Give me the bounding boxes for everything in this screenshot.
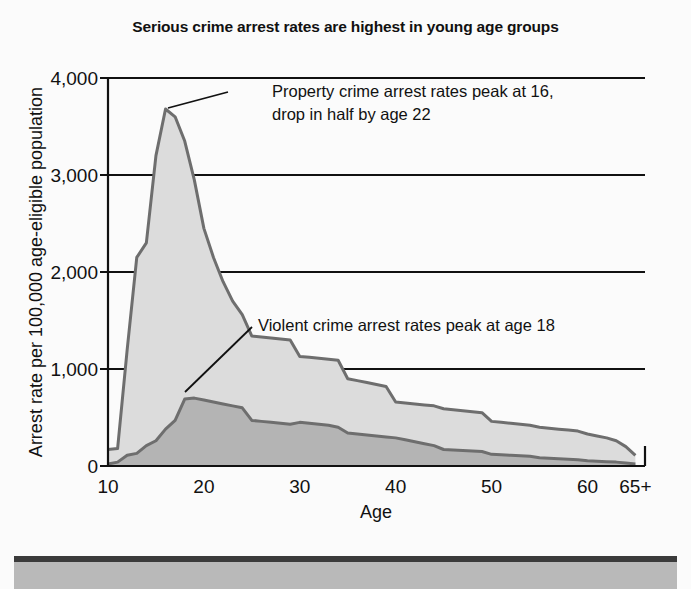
annotation-text: Property crime arrest rates peak at 16,d… xyxy=(272,82,554,123)
x-tick-label: 30 xyxy=(289,476,310,497)
x-axis-title-group: Age xyxy=(360,502,392,522)
x-tick-label: 65+ xyxy=(619,476,651,497)
y-tick-label: 2,000 xyxy=(50,262,98,283)
annotation-line: drop in half by age 22 xyxy=(272,105,431,123)
area-chart-svg: Arrest rate per 100,000 age-eligible pop… xyxy=(0,0,691,540)
annotation-text: Violent crime arrest rates peak at age 1… xyxy=(258,316,555,334)
x-tick-label: 50 xyxy=(481,476,502,497)
y-axis-title-group: Arrest rate per 100,000 age-eligible pop… xyxy=(26,87,46,457)
y-tick-labels-group: 01,0002,0003,0004,000 xyxy=(50,68,108,477)
plot-area-container: Arrest rate per 100,000 age-eligible pop… xyxy=(0,0,691,540)
series-areas-group xyxy=(108,109,635,466)
x-tick-label: 20 xyxy=(193,476,214,497)
annotation-line: Property crime arrest rates peak at 16, xyxy=(272,82,554,100)
y-tick-label: 4,000 xyxy=(50,68,98,89)
annotation-leader-line xyxy=(168,92,228,108)
x-axis-title: Age xyxy=(360,502,392,522)
x-tick-label: 60 xyxy=(577,476,598,497)
y-axis-title: Arrest rate per 100,000 age-eligible pop… xyxy=(26,87,46,457)
x-tick-label: 10 xyxy=(97,476,118,497)
y-tick-label: 0 xyxy=(87,456,98,477)
footer-bar xyxy=(14,556,677,589)
chart-figure: Serious crime arrest rates are highest i… xyxy=(0,0,691,589)
y-tick-label: 3,000 xyxy=(50,165,98,186)
x-tick-label: 40 xyxy=(385,476,406,497)
annotation-line: Violent crime arrest rates peak at age 1… xyxy=(258,316,555,334)
y-tick-label: 1,000 xyxy=(50,359,98,380)
